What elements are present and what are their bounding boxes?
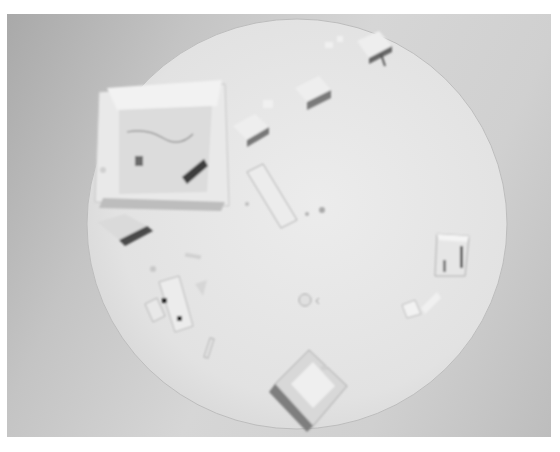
- model-photograph: [7, 14, 551, 437]
- right-box-building: [435, 234, 469, 276]
- large-open-box: [95, 80, 229, 211]
- model-scene: [7, 14, 551, 437]
